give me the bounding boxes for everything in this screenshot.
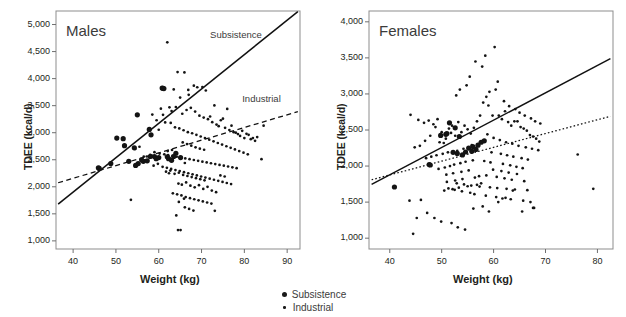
y-tick-label: 4,500	[27, 46, 50, 56]
y-tick-label: 2,500	[27, 154, 50, 164]
legend-label-subsistence: Subsistence	[292, 289, 346, 300]
y-tick-label: 4,000	[27, 73, 50, 83]
x-tick-label: 80	[228, 256, 260, 266]
x-tick-label: 80	[581, 256, 613, 266]
y-tick-label: 4,000	[340, 16, 363, 26]
y-tick-label: 5,000	[27, 19, 50, 29]
y-tick-label: 1,500	[340, 196, 363, 206]
data-series-subsistence	[96, 85, 183, 171]
chart-panel-females: TDEE (kcal/d) Females Weight (kg) 1,0001…	[313, 0, 626, 295]
y-tick-label: 3,000	[340, 88, 363, 98]
chart-panel-males: TDEE (kcal/d) Males Weight (kg) 1,0001,5…	[0, 0, 313, 295]
y-tick-label: 2,500	[340, 124, 363, 134]
data-series-industrial	[408, 46, 594, 235]
scatter-plot-males	[0, 0, 313, 295]
legend-label-industrial: Industrial	[293, 302, 334, 313]
legend-marker-industrial-icon	[283, 306, 286, 309]
trendline-industrial	[372, 116, 611, 179]
y-tick-label: 1,000	[340, 232, 363, 242]
x-axis-label-females: Weight (kg)	[453, 273, 513, 285]
legend-item-industrial: Industrial	[280, 301, 346, 314]
trendline-subsistence	[372, 59, 611, 185]
annotation-subsistence: Subsistence	[210, 29, 262, 40]
x-tick-label: 70	[186, 256, 218, 266]
x-tick-label: 60	[143, 256, 175, 266]
trendline-subsistence	[58, 12, 298, 205]
y-tick-label: 1,500	[27, 208, 50, 218]
annotation-industrial: Industrial	[242, 93, 281, 104]
figure-legend: Subsistence Industrial	[0, 288, 626, 314]
scatter-plot-females	[313, 0, 626, 295]
legend-item-subsistence: Subsistence	[280, 288, 346, 301]
y-tick-label: 3,000	[27, 127, 50, 137]
x-tick-label: 50	[100, 256, 132, 266]
x-tick-label: 50	[426, 256, 458, 266]
x-tick-label: 40	[374, 256, 406, 266]
x-tick-label: 90	[271, 256, 303, 266]
y-tick-label: 3,500	[340, 52, 363, 62]
legend-marker-subsistence-icon	[282, 292, 287, 297]
y-tick-label: 2,000	[27, 181, 50, 191]
x-axis-label-males: Weight (kg)	[140, 273, 200, 285]
x-tick-label: 70	[530, 256, 562, 266]
y-tick-label: 2,000	[340, 160, 363, 170]
x-tick-label: 60	[478, 256, 510, 266]
y-tick-label: 1,000	[27, 235, 50, 245]
x-tick-label: 40	[57, 256, 89, 266]
y-tick-label: 3,500	[27, 100, 50, 110]
